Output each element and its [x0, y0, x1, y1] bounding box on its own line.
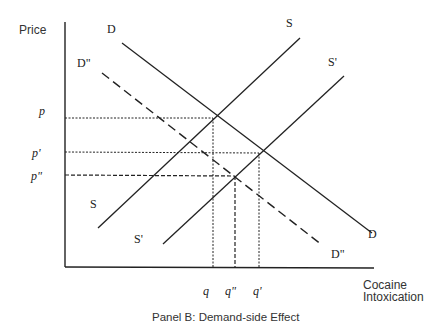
price-guide-p-double: [65, 175, 235, 176]
demand-curve-D: [122, 43, 372, 233]
curve-label-D2-top: D": [77, 56, 91, 70]
curve-label-D2-bottom: D": [331, 247, 345, 261]
demand-curve-D-double: [102, 73, 322, 245]
curve-label-S-bottom: S: [90, 197, 97, 211]
quantity-label-q-double: q": [225, 284, 237, 298]
price-label-p-double: p": [30, 169, 43, 183]
supply-demand-diagram: Price Cocaine Intoxication p p' p" q q" …: [0, 0, 441, 325]
supply-curve-S: [98, 38, 300, 228]
figure-caption: Panel B: Demand-side Effect: [152, 311, 300, 323]
curve-label-S-top: S: [286, 16, 293, 30]
quantity-label-q-prime: q': [253, 284, 262, 298]
y-axis-label: Price: [19, 23, 47, 37]
price-label-p: p: [38, 104, 45, 118]
price-guide-p-prime: [65, 152, 259, 153]
quantity-label-q: q: [203, 284, 209, 298]
supply-curve-S-prime: [163, 76, 344, 244]
x-axis: [65, 267, 374, 268]
price-label-p-prime: p': [31, 146, 41, 160]
curve-label-D-top: D: [107, 22, 116, 36]
curve-label-D-bottom: D: [368, 227, 377, 241]
curve-label-S1-bottom: S': [134, 232, 143, 246]
curve-label-S1-top: S': [328, 55, 337, 69]
x-axis-label-line2: Intoxication: [363, 290, 424, 304]
